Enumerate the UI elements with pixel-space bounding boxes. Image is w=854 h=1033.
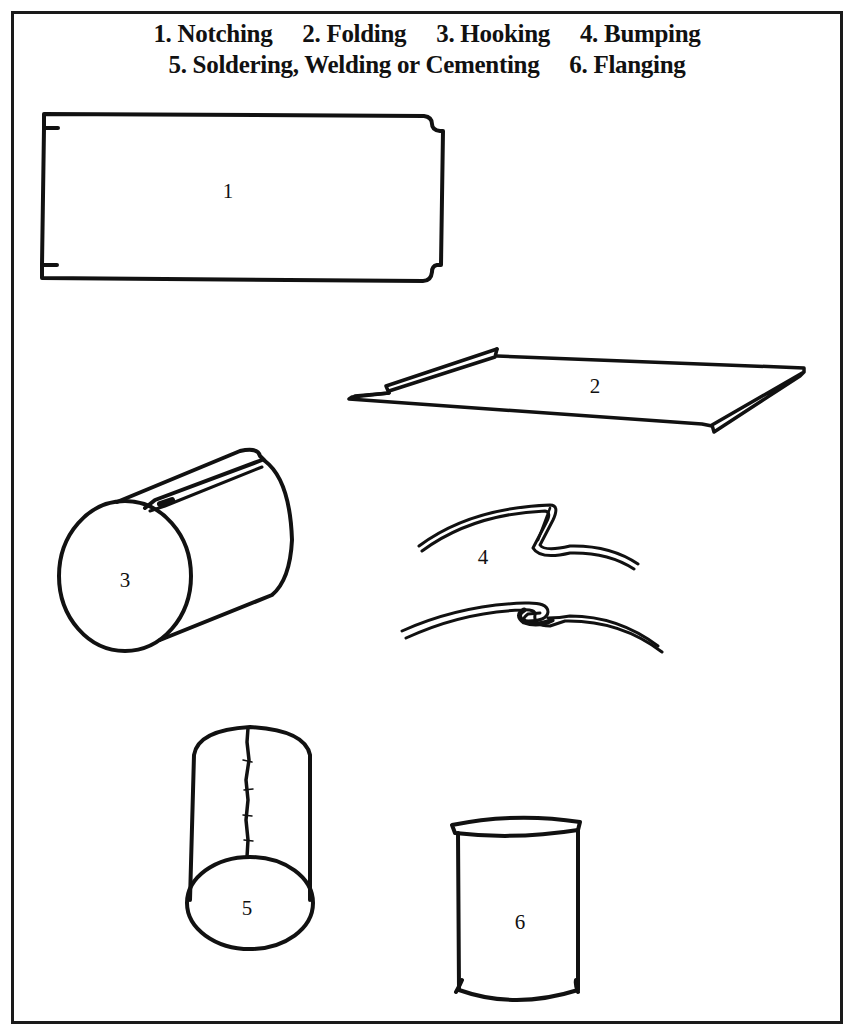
figure-6-label: 6	[515, 910, 526, 935]
figure-4-label: 4	[478, 545, 489, 570]
figure-2-label: 2	[590, 374, 601, 399]
figure-3-label: 3	[120, 568, 131, 593]
figure-3-hooked-cylinder	[59, 450, 292, 651]
figure-1-notched-sheet	[42, 114, 443, 281]
figure-2-folded-sheet	[349, 349, 804, 432]
figure-1-label: 1	[223, 179, 234, 204]
figure-4-bumped-seams	[402, 505, 662, 652]
figure-5-label: 5	[242, 896, 253, 921]
diagram-illustrations	[0, 0, 854, 1033]
